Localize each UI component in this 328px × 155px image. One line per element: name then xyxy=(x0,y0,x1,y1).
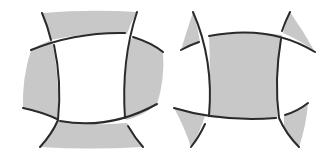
left-right-lobe-shade xyxy=(125,38,164,120)
right-center-shade xyxy=(208,32,282,119)
right-panel xyxy=(174,12,315,147)
left-left-lobe-shade xyxy=(23,40,59,120)
diagram-canvas xyxy=(0,0,328,155)
woven-strips-figure xyxy=(0,0,328,155)
left-panel xyxy=(23,11,164,149)
